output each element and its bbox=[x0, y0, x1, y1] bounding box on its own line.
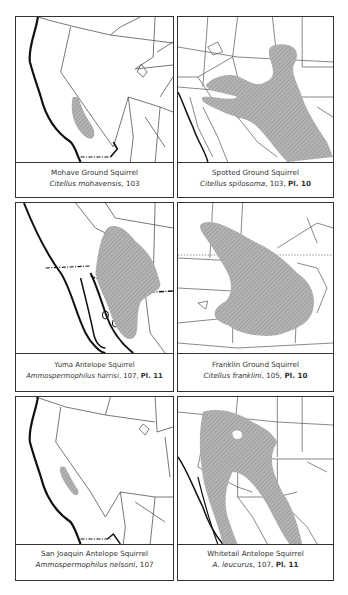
scientific-name: A. leucurus bbox=[212, 560, 252, 569]
caption: Spotted Ground Squirrel Citellus spiloso… bbox=[178, 162, 333, 197]
range-area bbox=[95, 226, 160, 339]
common-name: Mohave Ground Squirrel bbox=[16, 168, 173, 179]
plate-ref: Pl. 10 bbox=[284, 371, 307, 380]
range-area bbox=[72, 97, 95, 139]
range-map-svg bbox=[178, 17, 333, 162]
range-area bbox=[202, 44, 333, 162]
plate-ref: Pl. 11 bbox=[276, 560, 299, 569]
scientific-name: Citellus spilosoma bbox=[200, 179, 265, 188]
scientific-name-line: Citellus spilosoma, 103, Pl. 10 bbox=[178, 179, 333, 190]
common-name: Spotted Ground Squirrel bbox=[178, 168, 333, 179]
page-ref: , 107 bbox=[135, 560, 153, 569]
caption: Yuma Antelope Squirrel Ammospermophilus … bbox=[16, 353, 173, 391]
range-map-svg bbox=[178, 397, 333, 544]
scientific-name: Citellus mohavensis bbox=[49, 179, 121, 188]
scientific-name: Ammospermophilus harrisi bbox=[26, 372, 119, 380]
map-panel-whitetail-antelope-squirrel: Whitetail Antelope Squirrel A. leucurus,… bbox=[177, 396, 334, 581]
page-ref: , 107, bbox=[253, 560, 276, 569]
range-area bbox=[200, 222, 314, 336]
range-map bbox=[16, 17, 173, 163]
caption: Mohave Ground Squirrel Citellus mohavens… bbox=[16, 162, 173, 197]
scientific-name: Ammospermophilus nelsoni bbox=[35, 560, 135, 569]
common-name: Yuma Antelope Squirrel bbox=[16, 360, 173, 371]
scientific-name: Citellus franklini bbox=[204, 371, 262, 380]
range-area bbox=[60, 467, 78, 495]
range-area bbox=[200, 410, 302, 544]
range-map bbox=[178, 17, 333, 163]
range-map bbox=[178, 397, 333, 545]
scientific-name-line: Citellus franklini, 105, Pl. 10 bbox=[178, 371, 333, 382]
caption: Whitetail Antelope Squirrel A. leucurus,… bbox=[178, 543, 333, 580]
scientific-name-line: Ammospermophilus nelsoni, 107 bbox=[16, 560, 173, 571]
map-panel-san-joaquin-antelope-squirrel: San Joaquin Antelope Squirrel Ammospermo… bbox=[15, 396, 174, 581]
page-ref: , 103 bbox=[121, 179, 139, 188]
scientific-name-line: Citellus mohavensis, 103 bbox=[16, 179, 173, 190]
scientific-name-line: Ammospermophilus harrisi, 107, Pl. 11 bbox=[16, 371, 173, 382]
map-panel-mohave-ground-squirrel: Mohave Ground Squirrel Citellus mohavens… bbox=[15, 16, 174, 198]
range-map bbox=[16, 397, 173, 545]
caption: Franklin Ground Squirrel Citellus frankl… bbox=[178, 353, 333, 391]
map-panel-spotted-ground-squirrel: Spotted Ground Squirrel Citellus spiloso… bbox=[177, 16, 334, 198]
range-map-svg bbox=[16, 17, 173, 162]
page-ref: , 105, bbox=[262, 371, 285, 380]
plate-ref: Pl. 11 bbox=[141, 372, 163, 380]
common-name: Whitetail Antelope Squirrel bbox=[178, 549, 333, 560]
page-ref: , 107, bbox=[119, 372, 141, 380]
common-name: San Joaquin Antelope Squirrel bbox=[16, 549, 173, 560]
page-ref: , 103, bbox=[265, 179, 288, 188]
map-panel-franklin-ground-squirrel: Franklin Ground Squirrel Citellus frankl… bbox=[177, 202, 334, 392]
range-map-svg bbox=[16, 397, 173, 544]
range-map bbox=[178, 203, 333, 354]
scientific-name-line: A. leucurus, 107, Pl. 11 bbox=[178, 560, 333, 571]
caption: San Joaquin Antelope Squirrel Ammospermo… bbox=[16, 543, 173, 580]
plate-ref: Pl. 10 bbox=[288, 179, 311, 188]
range-map-svg bbox=[178, 203, 333, 353]
map-panel-yuma-antelope-squirrel: Yuma Antelope Squirrel Ammospermophilus … bbox=[15, 202, 174, 392]
common-name: Franklin Ground Squirrel bbox=[178, 360, 333, 371]
range-map-svg bbox=[16, 203, 173, 353]
range-map bbox=[16, 203, 173, 354]
